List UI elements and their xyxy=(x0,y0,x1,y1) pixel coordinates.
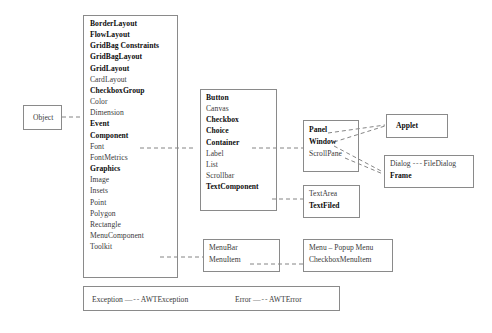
list-item[interactable]: CheckboxGroup xyxy=(90,85,178,96)
menucomponent-subclasses-list: MenuBar MenuItem xyxy=(209,242,283,266)
list-item[interactable]: Rectangle xyxy=(90,219,178,230)
dialog-label[interactable]: Dialog xyxy=(390,159,411,168)
list-item-menuitem[interactable]: MenuItem xyxy=(209,254,283,266)
frame-label[interactable]: Frame xyxy=(390,170,478,182)
list-item-scrollpane[interactable]: ScrollPane xyxy=(309,148,361,160)
list-item-textfiled[interactable]: TextFiled xyxy=(309,200,364,212)
container-list: Panel Window ScrollPane xyxy=(309,124,361,161)
menuitem-subclasses-list: Menu – Popup Menu CheckboxMenuItem xyxy=(309,242,397,266)
list-item-container[interactable]: Container xyxy=(206,137,280,148)
list-item[interactable]: FontMetrics xyxy=(90,152,178,163)
awtexception-label[interactable]: AWTException xyxy=(141,295,188,304)
dash-connector: - - - xyxy=(413,158,422,170)
error-pair: Error— - -AWTError xyxy=(235,294,302,306)
list-item[interactable]: Toolkit xyxy=(90,241,178,252)
component-list: Button Canvas Checkbox Choice Container … xyxy=(206,92,280,192)
awt-main-list: BorderLayout FlowLayout GridBag Constrai… xyxy=(90,18,178,252)
list-item[interactable]: CardLayout xyxy=(90,74,178,85)
list-item[interactable]: Scrollbar xyxy=(206,170,280,181)
list-item[interactable]: GridLayout xyxy=(90,63,178,74)
list-item[interactable]: Image xyxy=(90,174,178,185)
awterror-label[interactable]: AWTError xyxy=(269,295,302,304)
list-item[interactable]: Choice xyxy=(206,125,280,136)
list-item[interactable]: Font xyxy=(90,141,178,152)
list-item-window[interactable]: Window xyxy=(309,136,361,148)
object-box-label: Object xyxy=(33,113,53,122)
list-item[interactable]: Checkbox xyxy=(206,114,280,125)
filedialog-label[interactable]: FileDialog xyxy=(424,159,456,168)
list-item[interactable]: Dimension xyxy=(90,107,178,118)
list-item[interactable]: FlowLayout xyxy=(90,29,178,40)
list-item[interactable]: Button xyxy=(206,92,280,103)
list-item-component[interactable]: Component xyxy=(90,130,178,141)
list-item[interactable]: Label xyxy=(206,148,280,159)
list-item[interactable]: List xyxy=(206,159,280,170)
awt-class-hierarchy-diagram: Object BorderLayout FlowLayout GridBag C… xyxy=(0,0,492,333)
row-dialog-filedialog: Dialog- - -FileDialog xyxy=(390,158,478,170)
list-item[interactable]: Polygon xyxy=(90,208,178,219)
list-item-textcomponent[interactable]: TextComponent xyxy=(206,181,280,192)
list-item-panel[interactable]: Panel xyxy=(309,124,361,136)
textcomponent-subclasses-list: TextArea TextFiled xyxy=(309,188,364,212)
list-item[interactable]: Graphics xyxy=(90,163,178,174)
list-item-textarea[interactable]: TextArea xyxy=(309,188,364,200)
list-item[interactable]: Point xyxy=(90,197,178,208)
dash-connector: — - - xyxy=(253,294,267,306)
list-item[interactable]: Color xyxy=(90,96,178,107)
exception-label[interactable]: Exception xyxy=(92,295,123,304)
list-item-checkboxmenuitem[interactable]: CheckboxMenuItem xyxy=(309,254,397,266)
list-item[interactable]: BorderLayout xyxy=(90,18,178,29)
dash-connector: — - - xyxy=(125,294,139,306)
list-item-menu-popupmenu[interactable]: Menu – Popup Menu xyxy=(309,242,397,254)
list-item[interactable]: Event xyxy=(90,118,178,129)
list-item-menubar[interactable]: MenuBar xyxy=(209,242,283,254)
error-label[interactable]: Error xyxy=(235,295,251,304)
list-item[interactable]: GridBagLayout xyxy=(90,51,178,62)
exception-pair: Exception— - -AWTException xyxy=(92,294,188,306)
list-item[interactable]: Canvas xyxy=(206,103,280,114)
applet-label[interactable]: Applet xyxy=(396,121,418,130)
list-item[interactable]: Insets xyxy=(90,185,178,196)
list-item-menucomponent[interactable]: MenuComponent xyxy=(90,230,178,241)
list-item[interactable]: GridBag Constraints xyxy=(90,40,178,51)
window-subclasses-list: Dialog- - -FileDialog Frame xyxy=(390,158,478,183)
